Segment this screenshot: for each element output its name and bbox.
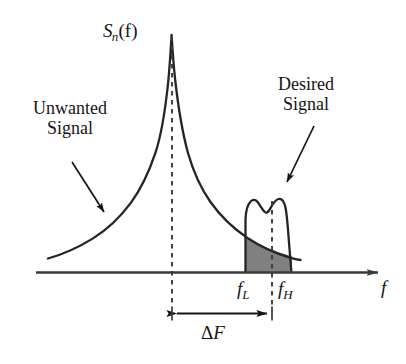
delta-f-symbol: F xyxy=(213,322,225,343)
desired-signal-label: Desired Signal xyxy=(254,74,358,114)
f-low-subscript: L xyxy=(242,287,249,302)
f-high-subscript: H xyxy=(283,287,292,302)
unwanted-signal-label: Unwanted Signal xyxy=(14,98,126,138)
f-high-label: fH xyxy=(278,278,293,302)
delta-f-arrow xyxy=(172,307,272,321)
f-low-label: fL xyxy=(237,278,250,302)
figure-root: Sn(f) Unwanted Signal Desired Signal fL … xyxy=(0,0,406,364)
psd-function-argument: (f) xyxy=(118,20,137,41)
desired-pointer-arrow xyxy=(287,126,314,182)
psd-function-label: Sn(f) xyxy=(103,20,137,44)
delta-f-label: ΔF xyxy=(201,322,225,343)
delta-symbol: Δ xyxy=(201,322,213,343)
x-axis-label: f xyxy=(381,277,386,298)
unwanted-pointer-arrow xyxy=(72,162,104,212)
figure-canvas xyxy=(0,0,406,364)
psd-curve xyxy=(48,35,301,260)
